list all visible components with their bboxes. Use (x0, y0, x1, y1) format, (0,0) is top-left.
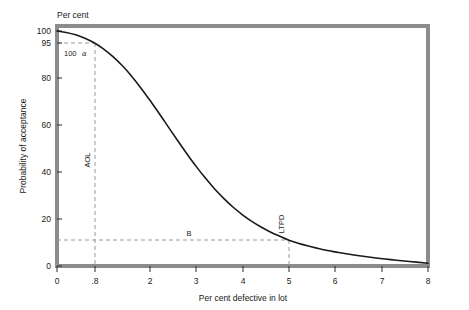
beta-label: B (186, 229, 191, 238)
y-axis-title: Probability of acceptance (18, 98, 28, 193)
y-tick-label-40: 40 (42, 167, 52, 177)
x-axis-tick-labels: 0 .8 2 3 4 5 6 7 8 (55, 276, 431, 286)
y-tick-label-60: 60 (42, 120, 52, 130)
plot-area-border (57, 26, 428, 266)
x-tick-label-8: 8 (426, 276, 431, 286)
x-tick-label-2: 2 (148, 276, 153, 286)
chart-svg: 100 95 80 60 40 20 0 0 .8 2 3 4 5 (0, 0, 469, 310)
oc-curve-figure: 100 95 80 60 40 20 0 0 .8 2 3 4 5 (0, 0, 469, 310)
annotation-aol: AOL (83, 152, 92, 167)
y-tick-label-95: 95 (42, 38, 52, 48)
y-tick-label-20: 20 (42, 214, 52, 224)
x-tick-label-7: 7 (380, 276, 385, 286)
annotation-alpha: 100 α (64, 49, 87, 58)
y-tick-label-80: 80 (42, 73, 52, 83)
x-tick-label-0-8: .8 (91, 276, 98, 286)
x-tick-label-3: 3 (194, 276, 199, 286)
x-axis-title: Per cent defective in lot (199, 293, 288, 303)
alpha-prefix-label: 100 (64, 49, 77, 58)
x-tick-label-5: 5 (287, 276, 292, 286)
y-axis-tick-labels: 100 95 80 60 40 20 0 (37, 26, 51, 271)
y-tick-label-100: 100 (37, 26, 51, 36)
alpha-symbol-label: α (82, 50, 87, 58)
x-tick-label-0: 0 (55, 276, 60, 286)
ltpd-label: LTPD (277, 214, 286, 233)
aol-label: AOL (83, 152, 92, 167)
x-tick-label-4: 4 (241, 276, 246, 286)
annotation-beta: B (186, 229, 191, 238)
annotation-ltpd: LTPD (277, 214, 286, 233)
plot-frame (57, 26, 428, 266)
x-tick-label-6: 6 (333, 276, 338, 286)
y-unit-label: Per cent (57, 10, 89, 20)
y-tick-label-0: 0 (46, 261, 51, 271)
